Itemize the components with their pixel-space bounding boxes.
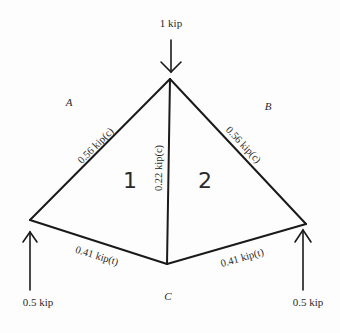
truss-diagram: 1 kip 0.5 kip 0.5 kip A B C 1 2 0.56 kip… <box>0 0 340 333</box>
left-reaction-arrow-icon <box>23 232 37 290</box>
left-reaction-label: 0.5 kip <box>23 296 54 308</box>
member-top-left <box>30 79 170 220</box>
region-label-c: C <box>164 290 172 302</box>
panel-label-1: 1 <box>123 168 137 193</box>
panel-label-2: 2 <box>198 168 212 193</box>
member-label-vertical: 0.22 kip(c) <box>153 144 165 191</box>
region-label-a: A <box>65 96 73 108</box>
region-label-b: B <box>265 100 272 112</box>
applied-load-arrow-icon <box>161 40 181 72</box>
member-label-top-right: 0.56 kip(c) <box>223 124 264 166</box>
member-label-top-left: 0.56 kip(c) <box>75 125 116 166</box>
applied-load-label: 1 kip <box>160 17 183 29</box>
member-label-bottom-right: 0.41 kip(t) <box>219 246 265 270</box>
member-top-right <box>170 79 306 224</box>
right-reaction-arrow-icon <box>295 230 311 290</box>
member-vertical <box>167 79 170 264</box>
right-reaction-label: 0.5 kip <box>293 296 324 308</box>
